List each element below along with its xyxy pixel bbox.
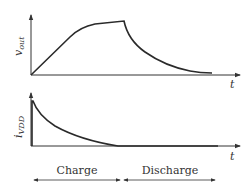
ivdd-plot: iVDD t xyxy=(12,93,240,163)
ivdd-y-label: iVDD xyxy=(12,115,26,138)
vout-curve xyxy=(31,21,212,75)
ivdd-curve xyxy=(32,101,218,146)
discharge-label: Discharge xyxy=(142,164,199,177)
phase-indicators: Charge Discharge xyxy=(34,164,215,180)
charge-label: Charge xyxy=(57,164,98,177)
vout-y-label: vout xyxy=(12,36,26,56)
vout-plot: vout t xyxy=(12,15,240,91)
ivdd-x-label: t xyxy=(230,150,235,163)
vout-x-label: t xyxy=(230,78,235,91)
charge-discharge-diagram: vout t iVDD t Charge Discharge xyxy=(0,0,246,190)
